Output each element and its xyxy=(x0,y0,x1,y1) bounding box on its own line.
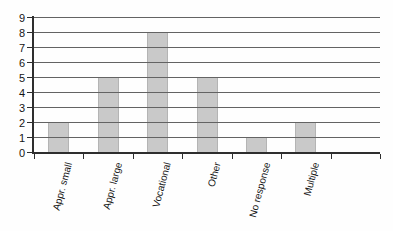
y-tick-label-7: 7 xyxy=(3,43,25,54)
y-tick-label-3: 3 xyxy=(3,103,25,114)
x-category-label-multiple: Multiple xyxy=(302,161,322,197)
gridline-5 xyxy=(34,77,380,78)
gridline-2 xyxy=(34,122,380,123)
y-axis-line xyxy=(32,16,34,154)
x-category-label-appr-large: Appr. large xyxy=(101,161,124,211)
x-tick-3 xyxy=(182,154,183,159)
gridline-7 xyxy=(34,47,380,48)
x-tick-7 xyxy=(380,154,381,159)
x-tick-5 xyxy=(281,154,282,159)
gridline-6 xyxy=(34,62,380,63)
y-tick-9 xyxy=(27,17,32,18)
gridline-3 xyxy=(34,107,380,108)
y-tick-label-8: 8 xyxy=(3,28,25,39)
x-tick-6 xyxy=(331,154,332,159)
x-tick-1 xyxy=(83,154,84,159)
y-tick-3 xyxy=(27,107,32,108)
gridline-1 xyxy=(34,137,380,138)
y-tick-label-0: 0 xyxy=(3,148,25,159)
y-tick-label-2: 2 xyxy=(3,118,25,129)
x-tick-2 xyxy=(133,154,134,159)
gridline-4 xyxy=(34,92,380,93)
y-tick-label-1: 1 xyxy=(3,133,25,144)
y-tick-2 xyxy=(27,122,32,123)
bar-appr-large xyxy=(98,77,119,152)
y-tick-4 xyxy=(27,92,32,93)
x-tick-4 xyxy=(232,154,233,159)
y-tick-8 xyxy=(27,32,32,33)
x-category-label-vocational: Vocational xyxy=(151,161,174,208)
y-tick-0 xyxy=(27,152,32,153)
x-category-label-other: Other xyxy=(206,161,223,188)
y-tick-6 xyxy=(27,62,32,63)
bar-no-response xyxy=(246,137,267,152)
x-tick-0 xyxy=(34,154,35,159)
x-category-label-appr-small: Appr. small xyxy=(51,161,74,212)
gridline-8 xyxy=(34,32,380,33)
y-tick-1 xyxy=(27,137,32,138)
y-tick-label-6: 6 xyxy=(3,58,25,69)
x-category-label-no-response: No response xyxy=(247,161,272,219)
y-tick-7 xyxy=(27,47,32,48)
gridline-9 xyxy=(34,17,380,18)
y-tick-label-4: 4 xyxy=(3,88,25,99)
bar-other xyxy=(197,77,218,152)
y-tick-label-9: 9 xyxy=(3,13,25,24)
y-tick-5 xyxy=(27,77,32,78)
y-tick-label-5: 5 xyxy=(3,73,25,84)
bar-chart-figure: 0123456789Appr. smallAppr. largeVocation… xyxy=(0,0,393,231)
